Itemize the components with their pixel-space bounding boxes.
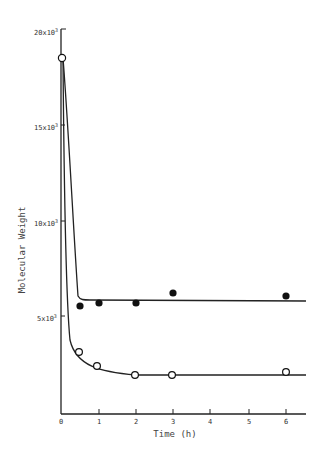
svg-text:5x103: 5x103: [37, 313, 57, 323]
svg-text:2: 2: [134, 418, 138, 426]
svg-text:20x103: 20x103: [34, 27, 58, 37]
x-ticks: [99, 409, 286, 414]
svg-text:1: 1: [97, 418, 101, 426]
y-axis-title: Molecular Weight: [17, 207, 27, 294]
open-series-curve: [63, 58, 306, 375]
open-series-points: [58, 54, 289, 378]
svg-text:3: 3: [171, 418, 175, 426]
svg-text:6: 6: [284, 418, 288, 426]
svg-text:5: 5: [247, 418, 251, 426]
x-tick-labels: 0 1 2 3 4 5 6: [59, 418, 288, 426]
x-axis-title: Time (h): [153, 429, 196, 439]
chart: 20x103 15x103 10x103 5x103 0 1 2 3 4 5 6…: [0, 0, 322, 459]
svg-text:0: 0: [59, 418, 63, 426]
svg-text:10x103: 10x103: [34, 218, 58, 228]
y-tick-labels: 20x103 15x103 10x103 5x103: [34, 27, 58, 323]
filled-series-curve: [63, 58, 306, 301]
svg-text:15x103: 15x103: [34, 122, 58, 132]
svg-text:4: 4: [208, 418, 212, 426]
